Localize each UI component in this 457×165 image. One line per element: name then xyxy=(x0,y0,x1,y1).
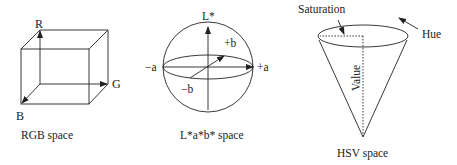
rgb-caption: RGB space xyxy=(21,129,73,142)
hsv-caption: HSV space xyxy=(337,147,388,160)
rgb-cube xyxy=(21,30,108,104)
hue-label: Hue xyxy=(422,28,441,40)
lab-caption: L*a*b* space xyxy=(180,129,244,142)
r-axis-label: R xyxy=(35,17,43,31)
hue-direction-arrow xyxy=(399,18,418,29)
g-axis-label: G xyxy=(112,77,121,91)
b-axis-label: B xyxy=(16,109,24,123)
saturation-label: Saturation xyxy=(298,3,346,15)
neg-a-label: −a xyxy=(145,61,157,73)
b-axis-arrow xyxy=(22,84,40,103)
pos-a-label: +a xyxy=(257,61,269,73)
pos-b-label: +b xyxy=(224,37,236,49)
neg-b-label: −b xyxy=(181,83,193,95)
value-label: Value xyxy=(350,65,362,91)
l-axis-label: L* xyxy=(202,10,215,22)
color-spaces-diagram: R G B RGB space L* +a −a +b −b L*a*b* sp… xyxy=(0,0,457,165)
lab-sphere xyxy=(163,22,253,112)
cube-front-face xyxy=(21,49,89,104)
hsv-cone xyxy=(318,18,418,137)
